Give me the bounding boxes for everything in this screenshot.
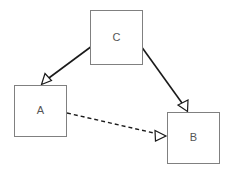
node-c-label: C	[113, 31, 121, 43]
edge-c-to-a[interactable]	[42, 46, 93, 85]
edge-c-to-b[interactable]	[141, 46, 188, 112]
edge-a-to-b-line	[67, 113, 156, 134]
diagram-svg: C A B	[0, 0, 228, 169]
node-b[interactable]: B	[168, 113, 220, 164]
diagram-canvas: C A B	[0, 0, 228, 169]
edge-c-to-a-line	[46, 46, 93, 81]
node-a[interactable]: A	[15, 86, 67, 137]
arrowhead-a-to-b-icon	[155, 131, 166, 142]
node-a-label: A	[37, 104, 45, 116]
edge-a-to-b[interactable]	[67, 113, 166, 141]
node-b-label: B	[190, 131, 197, 143]
edge-c-to-b-line	[141, 46, 185, 107]
arrowhead-c-to-b-icon	[178, 100, 188, 112]
arrowhead-c-to-a-icon	[42, 74, 52, 85]
node-c[interactable]: C	[91, 11, 143, 65]
